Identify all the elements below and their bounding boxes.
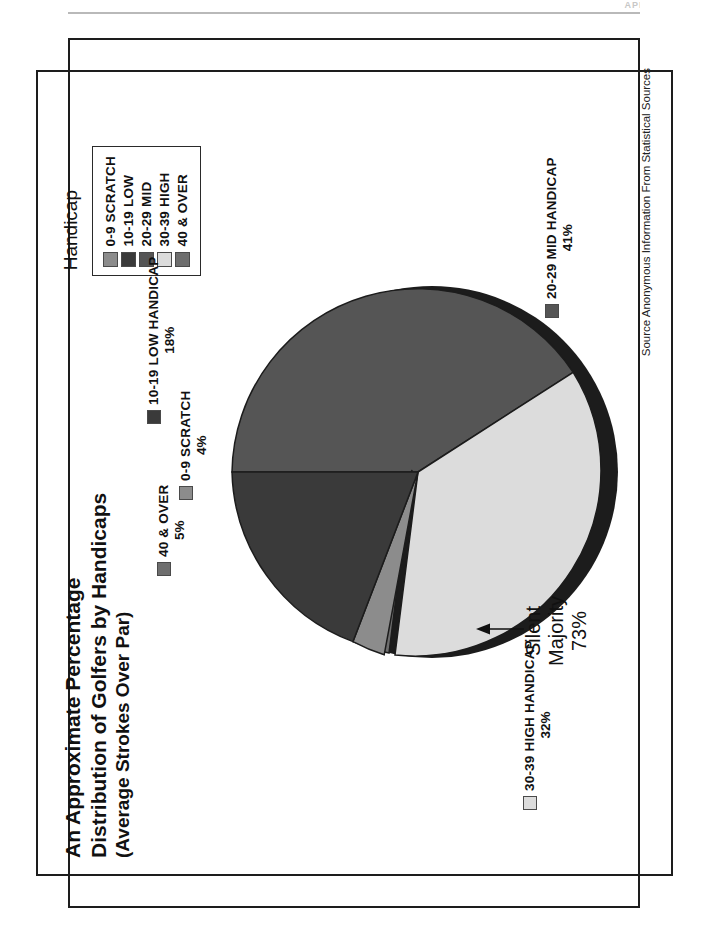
silent-majority-value: 73% [568,566,591,696]
source-note: Source Anonymous Information From Statis… [640,68,652,356]
legend-item-label: 20-29 MID [139,182,154,247]
callout-over40-label-row: 40 & OVER [156,485,171,576]
silent-majority-line1: Silent [522,566,545,696]
legend-title: Handicap [60,190,82,270]
legend-item-label: 30-39 HIGH [157,172,172,246]
callout-label: 40 & OVER [156,485,171,557]
callout-mid-label-row: 20-29 MID HANDICAP [544,157,559,318]
chart-title-line2: Distribution of Golfers by Handicaps [85,388,111,858]
legend-item-mid[interactable]: 20-29 MID [139,156,154,267]
legend-item-label: 0-9 SCRATCH [103,156,118,246]
callout-swatch-icon [146,410,160,424]
callout-low: 10-19 LOW HANDICAP 18% [146,257,177,424]
header-rule [26,12,688,14]
legend-swatch-icon [121,252,136,267]
scanned-page: APPENDIX 265 An Approximate Percentage D… [0,0,713,948]
callout-value: 41% [560,157,575,318]
chart-title: An Approximate Percentage Distribution o… [60,388,134,858]
callout-value: 18% [162,257,177,424]
chart-title-line1: An Approximate Percentage [60,388,86,858]
legend-item-scratch[interactable]: 0-9 SCRATCH [103,156,118,267]
pie-chart-figure: An Approximate Percentage Distribution o… [52,54,662,894]
callout-swatch-icon [178,486,192,500]
rotated-figure: An Approximate Percentage Distribution o… [52,54,662,894]
callout-scratch: 0-9 SCRATCH 4% [178,391,209,500]
chart-subtitle: (Average Strokes Over Par) [111,388,134,858]
callout-label: 20-29 MID HANDICAP [544,157,559,299]
legend-item-high[interactable]: 30-39 HIGH [157,156,172,267]
legend-item-label: 10-19 LOW [121,175,136,247]
callout-scratch-label-row: 0-9 SCRATCH [178,391,193,500]
legend-item-low[interactable]: 10-19 LOW [121,156,136,267]
callout-value: 4% [194,391,209,500]
callout-swatch-icon [544,304,558,318]
legend-item-label: 40 & OVER [175,174,190,246]
callout-swatch-icon [156,562,170,576]
callout-mid: 20-29 MID HANDICAP 41% [544,157,575,318]
callout-label: 0-9 SCRATCH [178,391,193,481]
silent-majority-arrow-icon [476,622,524,636]
callout-swatch-icon [522,796,536,810]
callout-label: 10-19 LOW HANDICAP [146,257,161,405]
legend-swatch-icon [103,252,118,267]
silent-majority-line2: Majority [545,566,568,696]
legend-item-over40[interactable]: 40 & OVER [175,156,190,267]
callout-low-label-row: 10-19 LOW HANDICAP [146,257,161,424]
silent-majority-annotation: Silent Majority 73% [522,566,591,696]
